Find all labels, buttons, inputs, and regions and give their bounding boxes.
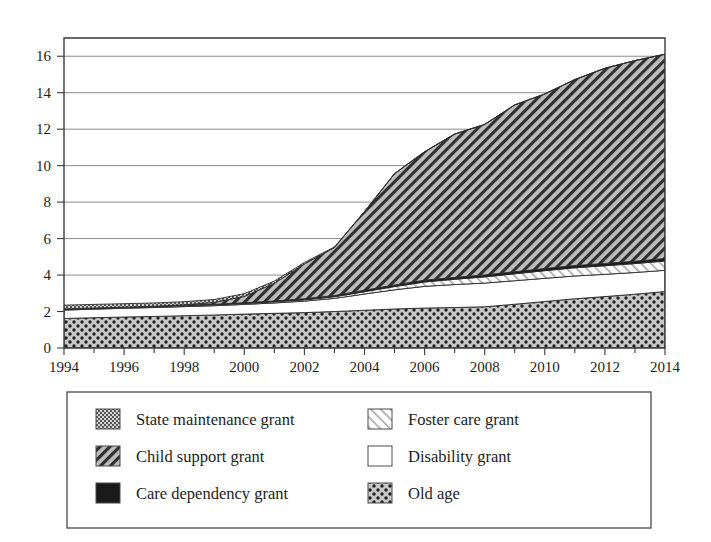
legend-label: Disability grant xyxy=(408,447,512,466)
legend-swatch-polka-dot xyxy=(368,483,392,503)
legend-label: State maintenance grant xyxy=(136,410,295,429)
x-tick-label: 2012 xyxy=(590,359,620,375)
legend-item-old-age[interactable]: Old age xyxy=(368,483,460,503)
legend-swatch-light-diagonal-hatch xyxy=(368,409,392,429)
legend-swatch-solid-white xyxy=(368,446,392,466)
x-tick-label: 1998 xyxy=(169,359,199,375)
legend-label: Care dependency grant xyxy=(136,484,289,503)
legend-swatch-fine-crosshatch xyxy=(96,409,120,429)
x-tick-label: 2014 xyxy=(650,359,681,375)
legend-label: Old age xyxy=(408,484,460,503)
legend-label: Child support grant xyxy=(136,447,265,466)
y-tick-label: 16 xyxy=(36,48,52,64)
x-tick-label: 2006 xyxy=(410,359,441,375)
y-tick-label: 6 xyxy=(44,231,52,247)
y-tick-label: 12 xyxy=(36,121,51,137)
y-tick-label: 2 xyxy=(44,304,52,320)
legend-swatch-dark-diagonal-hatch xyxy=(96,446,120,466)
y-tick-label: 4 xyxy=(44,267,52,283)
x-tick-label: 2000 xyxy=(229,359,259,375)
stacked-area-chart-figure: 0246810121416 19941996199820002002200420… xyxy=(0,0,711,542)
y-tick-label: 10 xyxy=(36,158,51,174)
legend-item-disability-grant[interactable]: Disability grant xyxy=(368,446,512,466)
y-tick-label: 8 xyxy=(44,194,52,210)
x-tick-label: 2010 xyxy=(530,359,560,375)
x-tick-label: 1994 xyxy=(49,359,80,375)
y-tick-label: 14 xyxy=(36,85,52,101)
x-tick-label: 2004 xyxy=(350,359,381,375)
legend-swatch-solid-black xyxy=(96,483,120,503)
x-tick-label: 1996 xyxy=(109,359,140,375)
legend-label: Foster care grant xyxy=(408,410,519,429)
x-tick-label: 2002 xyxy=(289,359,319,375)
legend-item-foster-care-grant[interactable]: Foster care grant xyxy=(368,409,519,429)
x-tick-label: 2008 xyxy=(470,359,500,375)
y-tick-label: 0 xyxy=(44,340,52,356)
